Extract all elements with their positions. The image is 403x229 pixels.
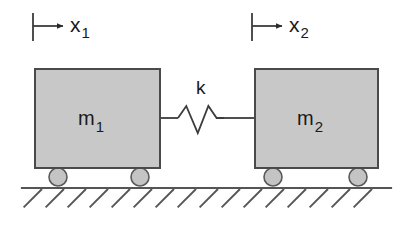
ground-hatch-mark — [156, 189, 174, 207]
ground-hatch-mark — [266, 189, 284, 207]
wheel-m2-left — [264, 168, 282, 186]
diagram-svg — [0, 0, 403, 229]
spring-coil-icon — [178, 106, 224, 133]
ground-hatch-mark — [46, 189, 64, 207]
ground-hatch-mark — [288, 189, 306, 207]
mass-label-m2: m2 — [297, 108, 322, 128]
mass-label-m1-base: m — [78, 107, 95, 129]
ground-hatch-mark — [134, 189, 152, 207]
ground-hatch-mark — [90, 189, 108, 207]
ground-hatch-mark — [310, 189, 328, 207]
displacement-label-x2-subscript: 2 — [301, 24, 309, 41]
ground-hatch-mark — [68, 189, 86, 207]
wheel-m1-left — [49, 168, 67, 186]
displacement-label-x1-subscript: 1 — [82, 24, 90, 41]
ground-hatch-mark — [354, 189, 372, 207]
displacement-label-x1-base: x — [70, 13, 81, 36]
ground-hatch-mark — [244, 189, 262, 207]
ground-hatch-group — [24, 189, 372, 207]
ground-hatch-mark — [222, 189, 240, 207]
ground-hatch-mark — [178, 189, 196, 207]
displacement-label-x2-base: x — [289, 13, 300, 36]
spring-group — [160, 106, 255, 133]
ground-hatch-mark — [112, 189, 130, 207]
wheel-m1-right — [131, 168, 149, 186]
ground-hatch-mark — [332, 189, 350, 207]
mass-label-m2-base: m — [297, 107, 314, 129]
spring-constant-label: k — [196, 78, 206, 97]
mass-label-m2-subscript: 2 — [315, 118, 323, 135]
mass-label-m1: m1 — [78, 108, 103, 128]
wheel-m2-right — [349, 168, 367, 186]
wheels-group — [49, 168, 367, 186]
mechanical-diagram-canvas: x1x2m1m2k — [0, 0, 403, 229]
displacement-label-x1: x1 — [70, 14, 89, 35]
mass-label-m1-subscript: 1 — [96, 118, 104, 135]
ground-hatch-mark — [24, 189, 42, 207]
displacement-label-x2: x2 — [289, 14, 308, 35]
ground-hatch-mark — [200, 189, 218, 207]
